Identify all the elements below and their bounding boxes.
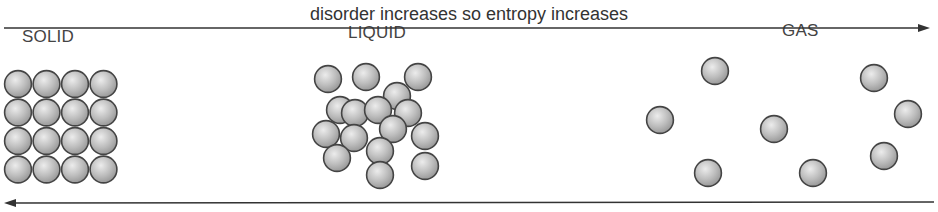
particle xyxy=(324,145,351,172)
particle xyxy=(5,71,32,98)
particle xyxy=(90,71,117,98)
particle xyxy=(62,156,89,183)
particle xyxy=(90,128,117,155)
states-of-matter-diagram xyxy=(0,0,938,212)
liquid-particles xyxy=(313,64,439,189)
particle xyxy=(412,123,439,150)
solid-particles xyxy=(5,71,117,183)
particle xyxy=(62,99,89,126)
particle xyxy=(33,71,60,98)
particle xyxy=(90,99,117,126)
particle xyxy=(5,156,32,183)
particle xyxy=(353,64,380,91)
particle xyxy=(5,128,32,155)
particle xyxy=(800,160,827,187)
particle xyxy=(315,66,342,93)
particle xyxy=(871,143,898,170)
gas-particles xyxy=(647,58,922,187)
particle xyxy=(895,101,922,128)
particle xyxy=(695,160,722,187)
particle xyxy=(33,156,60,183)
particle xyxy=(62,128,89,155)
particle xyxy=(313,121,340,148)
particle xyxy=(367,162,394,189)
particle xyxy=(761,116,788,143)
particle xyxy=(412,153,439,180)
particle xyxy=(5,99,32,126)
particle xyxy=(33,99,60,126)
particle xyxy=(62,71,89,98)
particle xyxy=(861,65,888,92)
particle xyxy=(367,138,394,165)
particle xyxy=(33,128,60,155)
particle xyxy=(405,64,432,91)
particle xyxy=(647,107,674,134)
particle xyxy=(90,156,117,183)
right-arrow-icon xyxy=(4,24,930,32)
particle xyxy=(702,58,729,85)
left-arrow-icon xyxy=(4,199,934,207)
